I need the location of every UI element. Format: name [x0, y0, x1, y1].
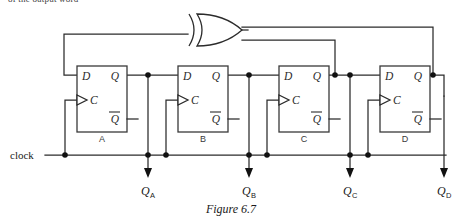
junction-qa-top — [145, 72, 151, 78]
clock-label: clock — [10, 149, 34, 161]
ff-b-qbar-label: Q — [212, 113, 221, 125]
ff-a-qbar-label: Q — [111, 113, 120, 125]
ff-d-q-label: Q — [414, 70, 423, 82]
output-label-qa: Q A — [141, 184, 155, 200]
ff-d-qbar-label: Q — [414, 113, 423, 125]
junction-clock-d — [365, 152, 371, 158]
ff-a-c-label: C — [90, 94, 98, 106]
figure-caption: Figure 6.7 — [205, 202, 257, 216]
ff-b-c-label: C — [191, 94, 199, 106]
ff-b-d-label: D — [182, 70, 192, 82]
output-label-qd: Q D — [437, 184, 452, 200]
ff-b-q-label: Q — [212, 70, 221, 82]
output-qa-q: Q — [141, 184, 150, 198]
output-qb-q: Q — [242, 184, 251, 198]
ff-d-d-label: D — [384, 70, 394, 82]
output-qd-q: Q — [437, 184, 446, 198]
xor-gate — [189, 14, 248, 46]
ff-a-d-label: D — [81, 70, 91, 82]
junction-clock-qb — [246, 152, 252, 158]
junction-clock-c — [264, 152, 270, 158]
figure-canvas: of the output word — [0, 0, 462, 221]
junction-clock-qc — [347, 152, 353, 158]
output-drop-qc — [346, 75, 354, 178]
flipflop-b: D Q C Q B — [178, 66, 239, 144]
output-label-qc: Q C — [343, 184, 358, 200]
output-qc-sub: C — [352, 191, 358, 200]
ff-b-name: B — [200, 134, 206, 144]
ff-a-q-label: Q — [111, 70, 120, 82]
output-drop-qa — [144, 75, 152, 178]
ff-d-name: D — [402, 134, 409, 144]
output-label-qb: Q B — [242, 184, 256, 200]
flipflop-a: D Q C Q A — [77, 66, 138, 144]
junction-qd-tap — [430, 72, 436, 78]
circuit-diagram: D Q C Q A D Q C Q B D Q — [0, 0, 462, 221]
output-qb-sub: B — [251, 191, 256, 200]
flipflop-d: D Q C Q D — [380, 66, 441, 144]
junction-clock-qa — [145, 152, 151, 158]
output-qd-sub: D — [446, 191, 452, 200]
flipflop-c: D Q C Q C — [279, 66, 340, 144]
junction-qc-tap — [332, 72, 338, 78]
ff-c-c-label: C — [292, 94, 300, 106]
ff-a-name: A — [99, 134, 105, 144]
junction-clock-b — [163, 152, 169, 158]
output-qa-sub: A — [150, 191, 155, 200]
ff-c-qbar-label: Q — [313, 113, 322, 125]
ff-c-d-label: D — [283, 70, 293, 82]
ff-c-name: C — [301, 134, 308, 144]
ff-c-q-label: Q — [313, 70, 322, 82]
output-drop-qb — [245, 75, 253, 178]
ff-d-c-label: C — [393, 94, 401, 106]
junction-qb-top — [246, 72, 252, 78]
output-drop-qd — [440, 96, 448, 178]
junction-clock-a — [62, 152, 68, 158]
output-qc-q: Q — [343, 184, 352, 198]
junction-qc-top — [347, 72, 353, 78]
